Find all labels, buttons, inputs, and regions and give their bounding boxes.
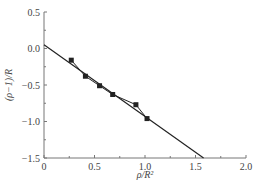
- data-point-marker: [83, 74, 88, 79]
- data-point-marker: [110, 92, 115, 97]
- y-axis-label: (ρ−1)/R: [3, 69, 15, 101]
- y-tick-label: −1.5: [22, 153, 40, 164]
- y-tick-label: −1.0: [22, 116, 40, 127]
- y-tick-label: 0.0: [28, 43, 41, 54]
- data-point-marker: [69, 58, 74, 63]
- data-point-marker: [97, 83, 102, 88]
- data-point-marker: [133, 102, 138, 107]
- chart: 00.51.01.52.00.50.0−0.5−1.0−1.5 ρ/R² (ρ−…: [0, 0, 255, 195]
- x-tick-label: 0.5: [88, 161, 101, 172]
- y-tick-label: −0.5: [22, 80, 40, 91]
- x-tick-label: 1.5: [189, 161, 202, 172]
- data-point-marker: [145, 116, 150, 121]
- x-tick-label: 2.0: [240, 161, 253, 172]
- y-tick-label: 0.5: [28, 7, 41, 18]
- fit-line: [44, 45, 204, 158]
- x-tick-label: 0: [42, 161, 47, 172]
- axes: 00.51.01.52.00.50.0−0.5−1.0−1.5: [22, 7, 252, 173]
- x-axis-label: ρ/R²: [136, 169, 155, 180]
